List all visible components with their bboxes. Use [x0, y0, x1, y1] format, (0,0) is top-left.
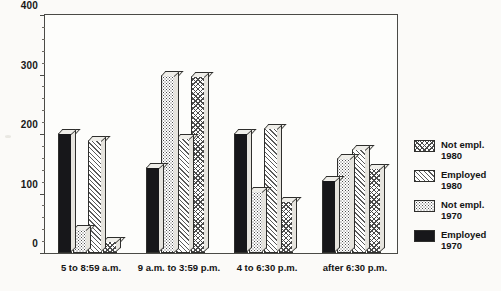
legend-label-line2: 1970: [441, 210, 484, 221]
bar-side-face: [247, 129, 252, 252]
legend-item: Employed1980: [414, 169, 498, 191]
legend-item: Not empl.1980: [414, 139, 498, 161]
bar-group: [309, 15, 397, 253]
x-axis-label: after 6:30 p.m.: [323, 262, 387, 273]
bar: [58, 133, 72, 253]
chart-page: 0100200300400 5 to 8:59 a.m.9 a.m. to 3:…: [0, 0, 501, 291]
bar-group: [133, 15, 221, 253]
bar-side-face: [71, 129, 76, 252]
legend-label: Employed1970: [441, 229, 486, 251]
y-axis-label: 400: [21, 0, 38, 11]
legend-label-line2: 1980: [441, 150, 484, 161]
legend-label: Not empl.1970: [441, 199, 484, 221]
legend-label-line1: Not empl.: [441, 199, 484, 210]
bar-side-face: [101, 136, 106, 252]
x-axis-label: 4 to 6:30 p.m.: [237, 262, 298, 273]
bar-side-face: [292, 197, 297, 252]
legend-swatch: [414, 140, 435, 152]
bar-side-face: [159, 163, 164, 252]
bar-side-face: [174, 71, 179, 252]
bar-group: [221, 15, 309, 253]
bar-top-face: [279, 197, 302, 202]
legend-item: Not empl.1970: [414, 199, 498, 221]
bar-top-face: [58, 129, 81, 134]
bar: [234, 133, 248, 253]
legend-label-line1: Employed: [441, 169, 486, 180]
legend-label: Employed1980: [441, 169, 486, 191]
bar-top-face: [191, 72, 214, 77]
legend-item: Employed1970: [414, 229, 498, 251]
bar-top-face: [161, 71, 184, 76]
bar-side-face: [365, 145, 370, 252]
legend-label-line1: Employed: [441, 229, 486, 240]
bar-top-face: [103, 237, 126, 242]
y-axis-tick-major: [40, 253, 45, 254]
legend-swatch: [414, 200, 435, 212]
y-axis-label: 300: [21, 59, 38, 70]
bar-side-face: [277, 125, 282, 252]
legend-swatch: [414, 230, 435, 242]
y-axis-label: 0: [32, 238, 38, 249]
bar-top-face: [234, 129, 257, 134]
bar-top-face: [352, 145, 375, 150]
bar-side-face: [116, 238, 121, 252]
legend-label-line1: Not empl.: [441, 139, 484, 150]
y-axis-label: 100: [21, 178, 38, 189]
legend-label-line2: 1970: [441, 240, 486, 251]
bar-group: [45, 15, 133, 253]
bar-side-face: [380, 164, 385, 252]
bar-top-face: [88, 136, 111, 141]
chart-legend: Not empl.1980Employed1980Not empl.1970Em…: [414, 139, 498, 259]
legend-label: Not empl.1980: [441, 139, 484, 161]
bar: [322, 180, 336, 253]
legend-swatch: [414, 170, 435, 182]
x-axis-label: 5 to 8:59 a.m.: [61, 262, 121, 273]
x-axis-label: 9 a.m. to 3:59 p.m.: [138, 262, 220, 273]
bar-side-face: [204, 73, 209, 252]
bar-side-face: [335, 177, 340, 252]
bar-side-face: [350, 154, 355, 252]
legend-label-line2: 1980: [441, 180, 486, 191]
bar-side-face: [262, 187, 267, 252]
bar-groups: [45, 15, 397, 253]
y-axis-label: 200: [21, 119, 38, 130]
bar: [146, 167, 160, 253]
bar-top-face: [264, 124, 287, 129]
bar-top-face: [367, 164, 390, 169]
bar-side-face: [189, 135, 194, 252]
